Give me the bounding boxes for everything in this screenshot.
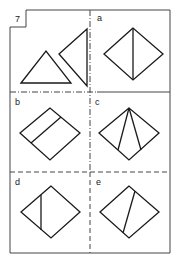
diamond-shape: [21, 186, 80, 238]
option-c-label: c: [95, 97, 100, 107]
option-d-panel[interactable]: d: [15, 177, 80, 238]
triangle-upright-shape: [21, 51, 71, 83]
left-inner-line-shape: [118, 108, 129, 150]
option-e-panel[interactable]: e: [96, 177, 159, 238]
diamond-shape: [20, 108, 80, 160]
option-a-panel[interactable]: a: [97, 13, 163, 80]
option-a-label: a: [97, 13, 102, 23]
option-e-label: e: [96, 177, 101, 187]
diamond-shape: [99, 108, 159, 160]
option-b-panel[interactable]: b: [15, 97, 80, 160]
question-number: 7: [15, 14, 20, 24]
triangle-left-pointing-shape: [59, 29, 87, 86]
option-c-panel[interactable]: c: [95, 97, 159, 160]
right-inner-line-shape: [129, 108, 141, 150]
slanted-line-shape: [123, 191, 135, 233]
option-b-label: b: [15, 97, 20, 107]
option-d-label: d: [15, 177, 20, 187]
puzzle-figure: 7 a b c d e: [0, 0, 179, 266]
